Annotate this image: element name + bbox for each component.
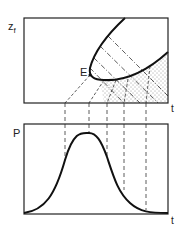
point-e-marker: [89, 74, 92, 77]
probability-curve: [24, 133, 168, 213]
bottom-panel: P t: [13, 124, 174, 226]
bottom-t-axis-label: t: [171, 215, 174, 226]
vertical-dashed-lines: [65, 103, 146, 210]
z-axis-label: zf: [8, 20, 17, 35]
top-t-axis-label: t: [171, 103, 174, 114]
p-axis-label: P: [13, 127, 20, 139]
point-e-label: E: [80, 66, 87, 78]
top-panel: zf E t: [8, 18, 174, 114]
diagram-canvas: zf E t P t: [0, 0, 182, 234]
